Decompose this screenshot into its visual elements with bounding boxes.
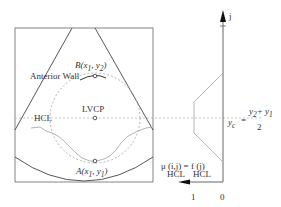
- lvcp-marker: [93, 116, 97, 120]
- mu-subscript-hcl: HCL: [167, 169, 185, 179]
- membership-profile: [194, 73, 223, 162]
- lvcp-label: LVCP: [82, 104, 104, 114]
- sector-edge-right: [95, 28, 153, 130]
- posterior-wall-contour: [31, 127, 152, 161]
- j-axis-arrow-icon: [220, 10, 226, 22]
- j-axis-label: j: [228, 11, 232, 21]
- mu-axis-arrow-icon: [178, 180, 190, 185]
- anterior-wall-label: Anterior Wall: [30, 71, 80, 81]
- yc-formula-numerator: y2+ y1: [248, 106, 273, 119]
- f-subscript-hcl: HCL: [193, 169, 211, 179]
- diagram-canvas: B(x1, y2) Anterior Wall HCL LVCP A(x1, y…: [0, 0, 281, 207]
- point-b-marker: [93, 74, 97, 78]
- yc-formula-lhs: yc: [227, 117, 236, 130]
- yc-formula-denominator: 2: [257, 122, 262, 132]
- point-a-label: A(x1, y1): [75, 166, 108, 179]
- tick-label-1: 1: [191, 192, 196, 202]
- lvcp-diagram: B(x1, y2) Anterior Wall HCL LVCP A(x1, y…: [0, 0, 281, 207]
- point-b-label: B(x1, y2): [75, 60, 107, 73]
- point-a-marker: [93, 159, 97, 163]
- hcl-left-label: HCL: [34, 113, 52, 123]
- tick-label-0: 0: [220, 192, 225, 202]
- yc-formula-eq: =: [241, 115, 246, 125]
